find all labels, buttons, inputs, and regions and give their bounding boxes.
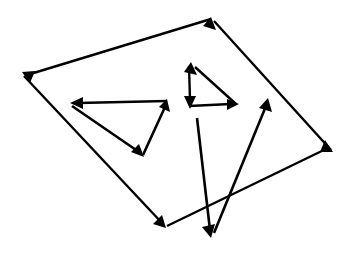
small-triangle-edge-line-vertical bbox=[189, 66, 190, 100]
v-triangle-edge-line-bottom-to-apex bbox=[214, 106, 266, 233]
figure-canvas bbox=[0, 0, 351, 255]
quad-edge-line-top-to-left bbox=[27, 19, 211, 75]
v-triangle-arrow-to-bottom-icon bbox=[202, 224, 215, 238]
left-triangle-arrow-to-bottom-icon bbox=[131, 144, 144, 157]
narrow-v-triangle bbox=[197, 98, 272, 238]
left-triangle-edge-line-left-to-bottom bbox=[72, 106, 139, 152]
quad-edge-bottom-to-right bbox=[167, 140, 333, 226]
left-triangle-edge-right-to-left bbox=[70, 97, 167, 109]
small-triangle-edge-line-base bbox=[189, 104, 231, 106]
outer-quadrilateral bbox=[22, 17, 333, 228]
left-triangle-edge-line-bottom-to-right bbox=[143, 107, 165, 155]
small-right-triangle bbox=[184, 62, 239, 110]
quad-edge-line-right-to-top bbox=[214, 21, 331, 150]
v-triangle-edge-line-upperleft-to-bottom bbox=[197, 118, 210, 230]
quad-edge-line-bottom-to-right bbox=[167, 148, 328, 226]
vector-drawing bbox=[0, 0, 351, 255]
v-triangle-edge-upperleft-to-bottom bbox=[197, 118, 215, 238]
v-triangle-arrow-to-apex-icon bbox=[259, 98, 272, 112]
small-triangle-edge-line-hypotenuse bbox=[195, 67, 236, 104]
left-triangle-edge-line-right-to-left bbox=[78, 101, 167, 103]
quad-edge-right-to-top bbox=[203, 17, 331, 150]
left-triangle-edge-left-to-bottom bbox=[72, 106, 144, 157]
quad-edge-top-to-left bbox=[22, 19, 211, 83]
left-triangle bbox=[70, 97, 170, 157]
v-triangle-edge-bottom-to-apex bbox=[214, 98, 272, 233]
left-triangle-edge-bottom-to-right bbox=[143, 99, 170, 155]
quad-edge-line-left-to-bottom bbox=[24, 76, 162, 223]
